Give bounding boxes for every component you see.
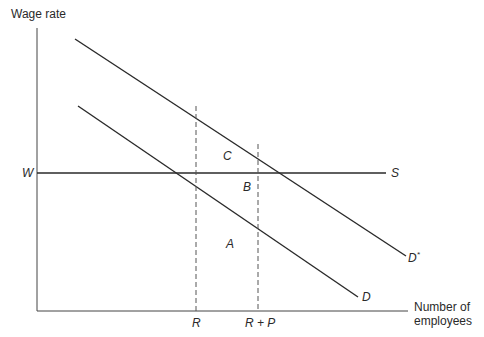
- demand-label: D: [362, 290, 371, 304]
- demand-star-label: D*: [408, 250, 420, 265]
- demand-star-letter: D: [408, 251, 417, 265]
- demand-star-line: [75, 39, 406, 256]
- tick-r-label: R: [192, 316, 201, 330]
- demand-star-sup: *: [417, 250, 420, 259]
- demand-line: [78, 106, 358, 297]
- tick-rp-label: R + P: [245, 316, 275, 330]
- y-axis-label: Wage rate: [11, 7, 66, 21]
- wage-label: W: [22, 166, 33, 180]
- region-c-label: C: [223, 149, 232, 163]
- x-axis-label: Number of employees: [414, 300, 472, 328]
- wage-diagram: [0, 0, 484, 337]
- supply-label: S: [391, 166, 399, 180]
- region-b-label: B: [243, 180, 251, 194]
- region-a-label: A: [226, 237, 234, 251]
- x-axis-label-line1: Number of: [414, 300, 472, 314]
- x-axis-label-line2: employees: [414, 314, 472, 328]
